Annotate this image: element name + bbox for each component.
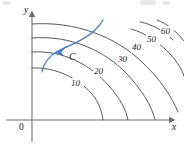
curve-c-label: C: [69, 52, 76, 62]
contour-label-60: 60: [161, 27, 170, 36]
contour-label-30: 30: [118, 55, 127, 64]
x-axis-label: x: [172, 123, 176, 133]
curve-c-direction-arrow: [56, 46, 67, 55]
contour-plot-figure: 10 20 30 40 50 60 C y x 0: [0, 0, 184, 148]
contour-label-10: 10: [71, 79, 80, 88]
y-axis-label: y: [24, 6, 28, 16]
plot-canvas: [0, 0, 184, 148]
contour-label-40: 40: [132, 43, 141, 52]
curve-c-group: [42, 20, 103, 72]
contour-label-50: 50: [147, 35, 156, 44]
origin-label: 0: [19, 123, 24, 133]
curve-c-path: [42, 20, 103, 72]
contour-line-10: [32, 68, 103, 120]
contour-label-20: 20: [94, 67, 103, 76]
